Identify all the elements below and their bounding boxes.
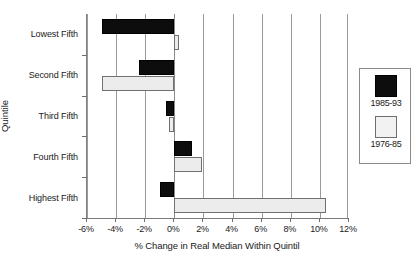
x-tick [319,218,320,222]
legend-swatch-1976-85 [375,116,397,138]
x-tick-label: 12% [328,224,368,234]
y-axis-title: Quintile [0,71,10,161]
y-tick-label-fourth-fifth: Fourth Fifth [0,152,78,162]
bar-fourth-fifth-1976-85 [174,157,202,172]
x-axis-line [86,218,349,219]
legend-label-1985-93: 1985-93 [366,98,406,108]
gridline-2% [203,14,204,218]
x-tick [115,218,116,222]
plot-inner [87,14,347,218]
legend-entry-1985-93: 1985-93 [366,75,406,108]
y-tick [82,177,87,178]
gridline--6% [87,14,88,218]
bar-third-fifth-1985-93 [166,101,175,116]
x-tick [290,218,291,222]
bar-third-fifth-1976-85 [169,117,175,132]
y-tick [82,55,87,56]
y-tick [82,96,87,97]
y-tick [82,136,87,137]
legend-swatch-1985-93 [375,75,397,97]
y-tick-label-second-fifth: Second Fifth [0,70,78,80]
legend-entry-1976-85: 1976-85 [366,116,406,149]
x-tick [202,218,203,222]
x-tick [144,218,145,222]
x-tick [173,218,174,222]
legend-label-1976-85: 1976-85 [366,139,406,149]
x-axis-title: % Change in Real Median Within Quintil [86,240,348,251]
gridline--4% [116,14,117,218]
y-tick [82,218,87,219]
bar-lowest-fifth-1985-93 [102,19,175,34]
bar-second-fifth-1976-85 [102,76,175,91]
bar-second-fifth-1985-93 [139,60,174,75]
bar-chart: -6%-4%-2%0%2%4%6%8%10%12% Lowest FifthSe… [0,0,416,262]
y-tick-label-highest-fifth: Highest Fifth [0,193,78,203]
x-tick [261,218,262,222]
x-tick [232,218,233,222]
gridline-10% [320,14,321,218]
bar-highest-fifth-1985-93 [160,182,175,197]
gridline-8% [291,14,292,218]
gridline--2% [145,14,146,218]
gridline-4% [233,14,234,218]
y-tick-label-third-fifth: Third Fifth [0,111,78,121]
bar-lowest-fifth-1976-85 [174,35,178,50]
legend: 1985-93 1976-85 [359,68,411,164]
bar-highest-fifth-1976-85 [174,198,325,213]
x-tick [348,218,349,222]
y-tick-label-lowest-fifth: Lowest Fifth [0,29,78,39]
bar-fourth-fifth-1985-93 [174,141,191,156]
gridline-6% [262,14,263,218]
plot-area [86,14,348,218]
